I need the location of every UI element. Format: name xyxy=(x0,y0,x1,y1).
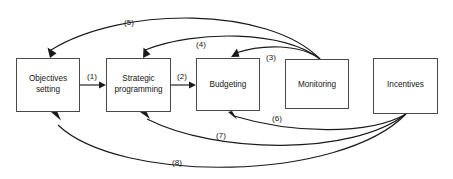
node-incentives-label-line1: Incentives xyxy=(387,80,424,89)
node-monitoring[interactable]: Monitoring xyxy=(286,60,349,109)
node-incentives[interactable]: Incentives xyxy=(374,59,438,114)
node-objectives-setting-label-line1: Objectives xyxy=(29,74,67,83)
node-strategic-programming-label-line1: Strategic xyxy=(122,74,154,83)
node-objectives-setting[interactable]: Objectives setting xyxy=(17,59,80,112)
edge-7-label: (7) xyxy=(216,131,226,140)
edge-5-path xyxy=(51,18,320,59)
node-budgeting[interactable]: Budgeting xyxy=(197,59,260,111)
edge-5-label: (5) xyxy=(124,18,134,27)
diagram-canvas: (5) (4) (3) (6) (7) xyxy=(0,0,453,179)
edge-2-arrowhead xyxy=(189,82,196,89)
edge-6-label: (6) xyxy=(272,114,282,123)
node-monitoring-label-line1: Monitoring xyxy=(298,80,337,89)
edge-2-label: (2) xyxy=(177,72,187,81)
edge-8-arrowhead xyxy=(51,111,61,121)
edge-6-arrowhead xyxy=(228,111,237,120)
edge-2: (2) xyxy=(171,72,197,88)
edge-1-arrowhead xyxy=(99,82,106,89)
node-strategic-programming[interactable]: Strategic programming xyxy=(107,59,171,112)
flow-diagram: (5) (4) (3) (6) (7) xyxy=(0,0,453,179)
node-strategic-programming-label-line2: programming xyxy=(114,85,163,94)
edge-8: (8) xyxy=(51,111,406,167)
node-budgeting-label-line1: Budgeting xyxy=(210,80,247,89)
edge-8-label: (8) xyxy=(172,158,182,167)
edge-6-path xyxy=(234,114,406,130)
edge-8-path xyxy=(58,114,406,167)
node-objectives-setting-label-line2: setting xyxy=(36,85,61,94)
edge-1: (1) xyxy=(80,72,107,88)
edge-1-label: (1) xyxy=(87,72,97,81)
edge-5: (5) xyxy=(48,18,321,59)
edge-4-label: (4) xyxy=(196,40,206,49)
edge-3-arrowhead xyxy=(231,49,240,58)
edge-3-label: (3) xyxy=(266,53,276,62)
